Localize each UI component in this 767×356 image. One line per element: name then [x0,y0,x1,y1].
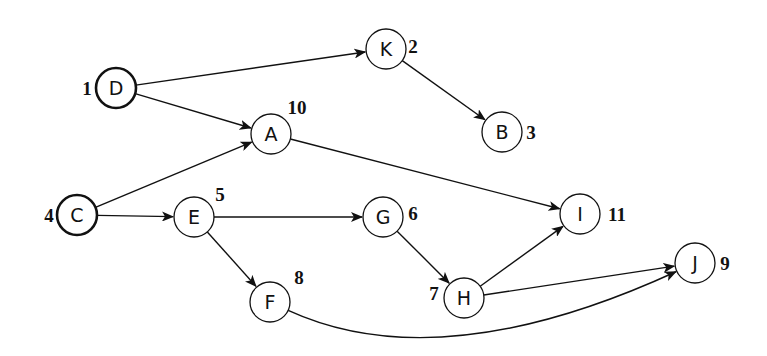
node-label: C [70,204,83,226]
node-k: K2 [366,29,418,69]
node-i: I11 [560,194,626,234]
order-number: 4 [44,205,54,226]
node-label: K [380,38,393,60]
edge-h-j [484,266,674,295]
edge-h-i [480,226,563,286]
order-number: 1 [82,78,92,99]
order-number: 9 [720,253,730,274]
node-g: G6 [363,197,418,237]
order-number: 7 [429,283,439,304]
order-number: 5 [215,184,225,205]
order-number: 3 [526,122,536,143]
node-d: D1 [82,68,136,108]
node-label: A [265,123,278,145]
order-number: 11 [608,204,626,225]
order-number: 10 [288,97,307,118]
node-label: J [691,252,698,274]
node-label: E [188,206,200,228]
node-j: J9 [675,243,730,283]
edge-k-b [402,61,485,120]
edge-c-e [97,215,173,216]
node-label: G [376,206,391,228]
node-h: H7 [429,278,484,318]
node-label: B [495,121,508,143]
node-b: B3 [482,112,536,152]
order-number: 8 [294,267,304,288]
nodes-layer: D1K2B3A10C4E5G6I11H7F8J9 [44,29,730,322]
edge-a-i [290,139,559,209]
edge-g-h [397,231,449,283]
order-number: 6 [408,203,418,224]
directed-graph: D1K2B3A10C4E5G6I11H7F8J9 [0,0,767,356]
node-label: I [577,203,583,225]
edges-layer [95,52,675,338]
node-e: E5 [174,184,225,237]
node-label: F [265,291,276,313]
edge-e-f [207,232,256,286]
edge-c-a [95,142,251,207]
node-a: A10 [251,97,307,154]
edge-d-k [136,52,365,85]
node-label: D [109,77,124,99]
node-label: H [457,287,471,309]
order-number: 2 [408,36,418,57]
edge-d-a [135,94,251,128]
node-c: C4 [44,195,97,235]
